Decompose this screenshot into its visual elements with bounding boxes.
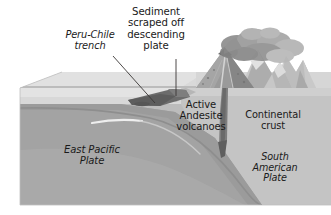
- volcanic-ash-plume: [220, 28, 304, 64]
- label-continental-crust: Continental crust: [231, 110, 315, 132]
- label-active-andesite-volcanoes: Active Andesite volcanoes: [170, 99, 232, 133]
- label-peru-chile-trench: Peru-Chile trench: [46, 30, 134, 52]
- diagram-canvas: Sediment scraped off descending plate Pe…: [0, 0, 331, 215]
- label-east-pacific-plate: East Pacific Plate: [40, 144, 144, 166]
- label-south-american-plate: South American Plate: [239, 152, 311, 184]
